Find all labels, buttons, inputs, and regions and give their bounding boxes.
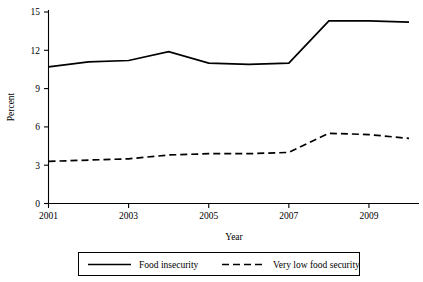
y-tick-label: 12: [31, 46, 41, 56]
chart-container: 03691215 20012003200520072009 Percent Ye…: [0, 0, 423, 282]
line-chart: 03691215 20012003200520072009 Percent Ye…: [0, 0, 423, 282]
x-tick-label: 2003: [119, 211, 138, 221]
y-axis-ticks: 03691215: [31, 7, 49, 209]
legend-label-1: Food insecurity: [139, 260, 199, 270]
series-line-1: [49, 21, 410, 67]
legend-label-2: Very low food security: [273, 260, 360, 270]
legend-content: Food insecurityVery low food security: [88, 260, 360, 270]
x-tick-label: 2009: [359, 211, 378, 221]
y-tick-label: 0: [35, 199, 40, 209]
y-tick-label: 15: [31, 7, 41, 17]
x-axis-title: Year: [225, 232, 243, 242]
y-tick-label: 9: [35, 84, 40, 94]
y-tick-label: 3: [35, 161, 40, 171]
x-tick-label: 2001: [39, 211, 58, 221]
data-series-group: [49, 21, 410, 161]
y-axis-title: Percent: [6, 92, 16, 121]
x-axis-ticks: 20012003200520072009: [39, 204, 379, 222]
x-tick-label: 2007: [279, 211, 298, 221]
x-tick-label: 2005: [199, 211, 218, 221]
series-line-2: [49, 133, 410, 161]
y-tick-label: 6: [35, 122, 40, 132]
